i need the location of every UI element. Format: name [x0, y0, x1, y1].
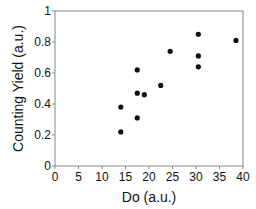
x-axis-label: Do (a.u.) — [122, 189, 176, 205]
x-tick-label: 25 — [166, 170, 180, 184]
data-point — [118, 105, 123, 110]
y-tick-label: 1 — [44, 4, 51, 18]
data-point — [168, 49, 173, 54]
data-point — [142, 92, 147, 97]
data-point — [196, 64, 201, 69]
data-point — [158, 83, 163, 88]
plot-frame — [55, 11, 243, 166]
y-tick-label: 0.6 — [34, 66, 51, 80]
x-tick-label: 30 — [189, 170, 203, 184]
x-tick-label: 10 — [95, 170, 109, 184]
data-point — [135, 115, 140, 120]
data-point — [135, 67, 140, 72]
x-tick-label: 35 — [213, 170, 227, 184]
y-axis-ticks: 00.20.40.60.81 — [34, 4, 55, 173]
x-axis-ticks: 0510152025303540 — [52, 166, 250, 184]
scatter-chart: 00.20.40.60.81 0510152025303540 Do (a.u.… — [0, 0, 256, 209]
data-point — [233, 38, 238, 43]
x-tick-label: 20 — [142, 170, 156, 184]
data-point — [196, 53, 201, 58]
data-points — [118, 32, 238, 135]
y-tick-label: 0.8 — [34, 35, 51, 49]
y-tick-label: 0 — [44, 159, 51, 173]
y-tick-label: 0.4 — [34, 97, 51, 111]
data-point — [135, 91, 140, 96]
x-tick-label: 0 — [52, 170, 59, 184]
x-tick-label: 40 — [236, 170, 250, 184]
x-tick-label: 5 — [75, 170, 82, 184]
data-point — [196, 32, 201, 37]
data-point — [118, 129, 123, 134]
x-tick-label: 15 — [119, 170, 133, 184]
y-tick-label: 0.2 — [34, 128, 51, 142]
y-axis-label: Counting Yield (a.u.) — [10, 25, 26, 152]
